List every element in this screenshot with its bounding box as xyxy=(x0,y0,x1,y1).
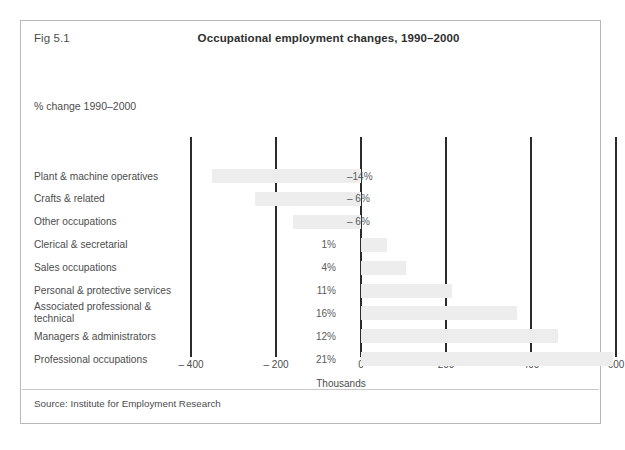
bar xyxy=(361,306,517,320)
figure-panel: Fig 5.1 Occupational employment changes,… xyxy=(20,20,601,424)
source-note: Source: Institute for Employment Researc… xyxy=(34,398,221,409)
gridline-400 xyxy=(530,137,532,352)
bar-value-label: 1% xyxy=(322,239,336,250)
x-axis-title: Thousands xyxy=(316,378,365,389)
gridline-600 xyxy=(615,137,617,352)
category-label: Plant & machine operatives xyxy=(34,171,158,183)
bar xyxy=(361,284,452,298)
tick-mark--400 xyxy=(190,352,192,357)
bar-value-label: 12% xyxy=(316,331,336,342)
tick-mark--200 xyxy=(275,352,277,357)
bar-value-label: – 6% xyxy=(347,216,370,227)
bar xyxy=(361,261,406,275)
bar-value-label: –14% xyxy=(347,171,373,182)
bar-value-label: 11% xyxy=(317,285,336,296)
category-label: Managers & administrators xyxy=(34,331,156,343)
x-tick-label: – 200 xyxy=(263,359,288,370)
bar xyxy=(361,238,387,252)
plot-area: – 400– 2000200400600ThousandsPlant & mac… xyxy=(21,21,602,425)
bar xyxy=(212,169,361,183)
category-label: Other occupations xyxy=(34,216,117,228)
gridline--400 xyxy=(190,137,192,352)
bar-value-label: 16% xyxy=(316,308,336,319)
category-label: Clerical & secretarial xyxy=(34,239,127,251)
x-tick-label: – 400 xyxy=(178,359,203,370)
bar xyxy=(361,352,613,366)
bar-value-label: – 6% xyxy=(347,193,370,204)
category-label: Professional occupations xyxy=(34,354,147,366)
tick-mark-600 xyxy=(615,352,617,357)
bar xyxy=(255,192,361,206)
bar xyxy=(361,329,558,343)
category-label: Crafts & related xyxy=(34,193,105,205)
category-label: Associated professional & technical xyxy=(34,301,151,324)
category-label: Sales occupations xyxy=(34,262,117,274)
footer-divider xyxy=(22,389,599,390)
bar-value-label: 4% xyxy=(322,262,336,273)
bar-value-label: 21% xyxy=(316,354,336,365)
category-label: Personal & protective services xyxy=(34,285,171,297)
